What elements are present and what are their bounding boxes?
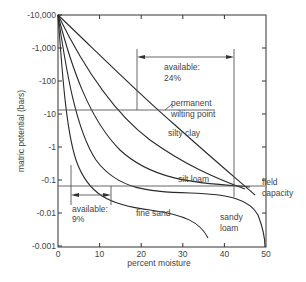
field-capacity-label-2: capacity [262, 188, 294, 198]
wilting-point-label-1: permanent [171, 98, 212, 108]
cropped-caption-text [0, 270, 306, 282]
field-capacity-label-1: field [262, 177, 278, 187]
silty-clay-label: silty clay [168, 128, 201, 138]
wilting-point-label-2: wilting point [170, 109, 216, 119]
x-axis-title: percent moisture [127, 258, 191, 268]
ytick-label: -10 [44, 109, 57, 119]
xtick-label: 0 [56, 249, 61, 259]
annotations: available: 24% permanent wilting point s… [72, 62, 294, 233]
y-axis-title: matric potential (bars) [16, 90, 26, 172]
ytick-label: -10,000 [27, 10, 56, 20]
moisture-retention-chart: -10,000 -1,000 -100 -10 -1 -0.1 -0.01 -0… [0, 0, 306, 282]
sandy-loam-label-1: sandy [220, 212, 243, 222]
ytick-label: -0.01 [37, 208, 57, 218]
ytick-label: -1 [48, 142, 56, 152]
x-axis: 0 10 20 30 40 50 percent moisture [56, 15, 271, 268]
ytick-label: -0.1 [41, 175, 56, 185]
avail24-label-2: 24% [164, 73, 181, 83]
sandy-loam-label-2: loam [220, 223, 238, 233]
curve-outer [58, 15, 255, 195]
curve-silt-loam [58, 15, 250, 187]
ytick-label: -0.001 [32, 241, 56, 251]
silt-loam-label: silt loam [178, 174, 209, 184]
arrow-left-icon [71, 193, 79, 197]
arrow-right-icon [226, 55, 234, 59]
xtick-label: 50 [261, 249, 271, 259]
arrow-left-icon [137, 55, 145, 59]
avail24-label-1: available: [164, 62, 200, 72]
fine-sand-label: fine sand [136, 208, 171, 218]
ytick-label: -100 [39, 76, 56, 86]
curve-silty-clay [58, 15, 245, 189]
avail9-label-2: 9% [72, 214, 85, 224]
ytick-label: -1,000 [32, 43, 56, 53]
avail9-label-1: available: [72, 204, 108, 214]
xtick-label: 10 [95, 249, 105, 259]
xtick-label: 40 [220, 249, 230, 259]
arrow-right-icon [103, 193, 111, 197]
reference-lines [58, 49, 265, 205]
